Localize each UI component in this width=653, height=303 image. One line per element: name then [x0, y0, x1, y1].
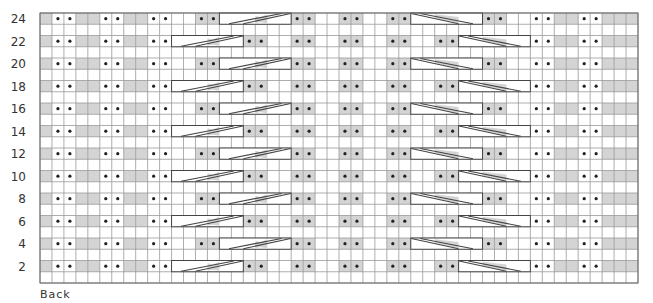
purl-dot-icon: [487, 62, 490, 65]
shaded-cell: [566, 216, 578, 227]
purl-dot-icon: [68, 107, 71, 110]
shaded-cell: [136, 193, 148, 204]
purl-dot-icon: [152, 265, 155, 268]
purl-dot-icon: [248, 220, 251, 223]
purl-dot-icon: [296, 40, 299, 43]
purl-dot-icon: [116, 197, 119, 200]
shaded-cell: [554, 58, 566, 69]
shaded-cell: [566, 13, 578, 24]
purl-dot-icon: [451, 220, 454, 223]
purl-dot-icon: [68, 265, 71, 268]
purl-dot-icon: [104, 17, 107, 20]
row-number-label: 20: [0, 59, 26, 70]
shaded-cell: [76, 238, 88, 249]
purl-dot-icon: [56, 130, 59, 133]
shaded-cell: [614, 238, 626, 249]
shaded-cell: [88, 58, 100, 69]
shaded-cell: [76, 103, 88, 114]
purl-dot-icon: [68, 242, 71, 245]
purl-dot-icon: [535, 152, 538, 155]
purl-dot-icon: [451, 175, 454, 178]
purl-dot-icon: [343, 242, 346, 245]
purl-dot-icon: [56, 197, 59, 200]
purl-dot-icon: [403, 85, 406, 88]
purl-dot-icon: [104, 152, 107, 155]
shaded-cell: [124, 36, 136, 47]
purl-dot-icon: [164, 17, 167, 20]
purl-dot-icon: [583, 265, 586, 268]
purl-dot-icon: [248, 85, 251, 88]
shaded-cell: [76, 193, 88, 204]
purl-dot-icon: [116, 265, 119, 268]
shaded-cell: [136, 148, 148, 159]
purl-dot-icon: [343, 175, 346, 178]
purl-dot-icon: [116, 175, 119, 178]
purl-dot-icon: [248, 175, 251, 178]
purl-dot-icon: [451, 265, 454, 268]
purl-dot-icon: [200, 152, 203, 155]
purl-dot-icon: [152, 242, 155, 245]
shaded-cell: [614, 126, 626, 137]
purl-dot-icon: [164, 130, 167, 133]
purl-dot-icon: [583, 40, 586, 43]
shaded-cell: [626, 58, 638, 69]
shaded-cell: [76, 36, 88, 47]
purl-dot-icon: [547, 242, 550, 245]
purl-dot-icon: [595, 62, 598, 65]
purl-dot-icon: [595, 265, 598, 268]
purl-dot-icon: [164, 107, 167, 110]
purl-dot-icon: [451, 85, 454, 88]
shaded-cell: [626, 238, 638, 249]
shaded-cell: [76, 13, 88, 24]
shaded-cell: [614, 13, 626, 24]
row-number-label: 6: [0, 217, 26, 228]
purl-dot-icon: [391, 130, 394, 133]
purl-dot-icon: [248, 40, 251, 43]
purl-dot-icon: [499, 62, 502, 65]
shaded-cell: [124, 171, 136, 182]
shaded-cell: [614, 58, 626, 69]
purl-dot-icon: [355, 242, 358, 245]
purl-dot-icon: [391, 175, 394, 178]
shaded-cell: [626, 126, 638, 137]
shaded-cell: [554, 171, 566, 182]
purl-dot-icon: [68, 130, 71, 133]
purl-dot-icon: [200, 242, 203, 245]
purl-dot-icon: [308, 197, 311, 200]
shaded-cell: [124, 238, 136, 249]
purl-dot-icon: [308, 107, 311, 110]
purl-dot-icon: [116, 242, 119, 245]
purl-dot-icon: [547, 85, 550, 88]
shaded-cell: [40, 13, 52, 24]
purl-dot-icon: [355, 107, 358, 110]
shaded-cell: [124, 81, 136, 92]
purl-dot-icon: [56, 265, 59, 268]
purl-dot-icon: [487, 152, 490, 155]
purl-dot-icon: [403, 152, 406, 155]
purl-dot-icon: [499, 197, 502, 200]
shaded-cell: [76, 81, 88, 92]
purl-dot-icon: [451, 130, 454, 133]
purl-dot-icon: [116, 85, 119, 88]
purl-dot-icon: [535, 107, 538, 110]
shaded-cell: [76, 126, 88, 137]
purl-dot-icon: [391, 265, 394, 268]
purl-dot-icon: [260, 85, 263, 88]
purl-dot-icon: [296, 265, 299, 268]
purl-dot-icon: [296, 197, 299, 200]
purl-dot-icon: [68, 85, 71, 88]
purl-dot-icon: [152, 130, 155, 133]
purl-dot-icon: [403, 265, 406, 268]
shaded-cell: [614, 216, 626, 227]
purl-dot-icon: [535, 197, 538, 200]
shaded-cell: [40, 81, 52, 92]
shaded-cell: [40, 171, 52, 182]
purl-dot-icon: [391, 85, 394, 88]
shaded-cell: [124, 148, 136, 159]
purl-dot-icon: [343, 40, 346, 43]
shaded-cell: [40, 58, 52, 69]
shaded-cell: [602, 261, 614, 272]
shaded-cell: [136, 58, 148, 69]
purl-dot-icon: [439, 220, 442, 223]
purl-dot-icon: [391, 107, 394, 110]
